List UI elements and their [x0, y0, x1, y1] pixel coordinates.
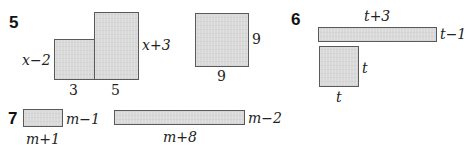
side-label-bottom: m+8	[163, 130, 197, 144]
side-label-bottom: 5	[111, 83, 120, 97]
side-label-bottom: t	[336, 90, 342, 104]
side-label-bottom: m+1	[26, 132, 60, 146]
side-label-right: 9	[252, 32, 261, 46]
rectangle-m-plus-8-by-m-minus-2	[114, 110, 245, 125]
problem-number: 7	[8, 110, 17, 127]
side-label-top: t+3	[364, 9, 390, 23]
rectangle-t-plus-3-by-t-minus-1	[318, 27, 437, 42]
square-9-by-9	[195, 13, 249, 67]
side-label-right: m−2	[248, 111, 282, 125]
side-label-right: m−1	[66, 112, 100, 126]
side-label-bottom: 3	[69, 83, 78, 97]
square-t-by-t	[319, 46, 359, 87]
side-label-right: t	[362, 61, 368, 75]
side-label-right: t−1	[440, 27, 466, 41]
rectangle-x-minus-2-by-3	[54, 39, 95, 80]
side-label-right: x+3	[142, 38, 171, 52]
rectangle-m-plus-1-by-m-minus-1	[23, 109, 63, 127]
problem-number: 6	[291, 11, 300, 28]
side-label-bottom: 9	[217, 69, 226, 83]
side-label-left: x−2	[22, 53, 51, 67]
rectangle-x-plus-3-by-5	[94, 12, 139, 80]
problem-number: 5	[9, 14, 18, 31]
